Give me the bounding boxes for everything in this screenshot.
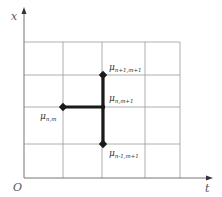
node-marker-bottom-icon bbox=[99, 140, 107, 148]
stencil-edges bbox=[63, 75, 103, 144]
node-labels: μn+1,m+1μn,m+1μn,mμn-1,m+1 bbox=[40, 62, 142, 159]
node-label-left: μn,m bbox=[40, 111, 56, 122]
x-axis-arrow-icon bbox=[22, 7, 27, 14]
node-label-center: μn,m+1 bbox=[109, 93, 133, 104]
node-label-bottom: μn-1,m+1 bbox=[109, 148, 139, 159]
node-marker-top-icon bbox=[99, 71, 107, 79]
t-axis-arrow-icon bbox=[206, 176, 213, 181]
t-axis-label: t bbox=[205, 182, 210, 195]
node-label-top: μn+1,m+1 bbox=[109, 62, 142, 73]
stencil-diagram: x t O μn+1,m+1μn,m+1μn,mμn-1,m+1 bbox=[0, 0, 222, 197]
origin-label: O bbox=[13, 181, 22, 194]
x-axis-label: x bbox=[11, 10, 18, 23]
node-marker-left-icon bbox=[59, 103, 67, 111]
node-marker-center-icon bbox=[101, 105, 105, 109]
stencil-nodes bbox=[59, 71, 107, 148]
